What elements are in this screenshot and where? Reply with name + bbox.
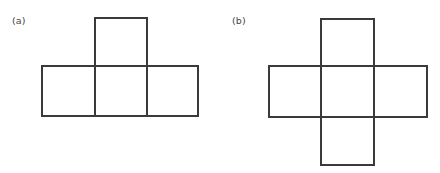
figure-panel-b: (b) <box>220 0 440 173</box>
net-square-top-square <box>95 18 147 66</box>
net-square-row-left-square <box>269 66 321 117</box>
net-square-row-right-square <box>374 66 427 117</box>
net-square-row-middle-square <box>95 66 147 116</box>
net-square-row-right-square <box>147 66 198 116</box>
figure-canvas: (a) (b) <box>0 0 440 173</box>
net-square-row-left-square <box>42 66 95 116</box>
figure-panel-a: (a) <box>0 0 220 173</box>
net-square-bottom-square <box>321 117 374 165</box>
cube-net-diagram-a <box>0 0 220 173</box>
net-square-row-middle-square <box>321 66 374 117</box>
net-square-top-square <box>321 19 374 66</box>
cube-net-diagram-b <box>220 0 440 173</box>
